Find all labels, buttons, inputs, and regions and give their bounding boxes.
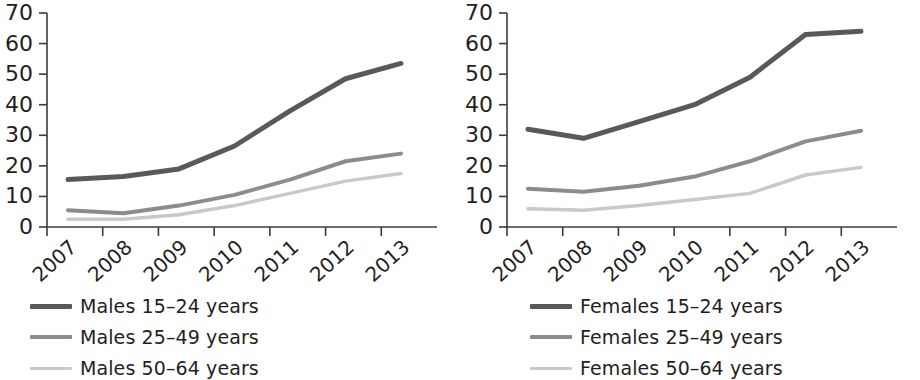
line-swatch-icon	[30, 335, 72, 339]
y-axis-tick-label: 20	[5, 153, 33, 178]
x-axis-tick-label: 2009	[138, 235, 192, 287]
x-axis-tick-label: 2011	[709, 235, 763, 287]
y-axis-tick-label: 40	[465, 92, 493, 117]
y-axis-tick-label: 40	[5, 92, 33, 117]
legend-swatch-males-15-24-wrap	[22, 304, 80, 309]
legend-item-females-25-49[interactable]: Females 25–49 years	[460, 325, 920, 349]
legend-item-females-50-64[interactable]: Females 50–64 years	[460, 356, 920, 380]
line-swatch-icon	[530, 367, 572, 370]
females-plot-area: 7060504030201002007200820092010201120122…	[460, 0, 920, 290]
x-axis-tick-label: 2010	[194, 235, 248, 287]
y-axis-tick-label: 70	[465, 0, 493, 25]
legend-swatch-males-50-64-wrap	[22, 367, 80, 370]
legend-label-females-15-24: Females 15–24 years	[580, 294, 783, 318]
chart-panel-females: 7060504030201002007200820092010201120122…	[460, 0, 920, 377]
males-plot-area: 7060504030201002007200820092010201120122…	[0, 0, 460, 290]
x-axis-tick-label: 2012	[765, 235, 819, 287]
legend-label-females-50-64: Females 50–64 years	[580, 356, 783, 380]
line-swatch-icon	[530, 304, 572, 309]
legend-label-males-50-64: Males 50–64 years	[80, 356, 259, 380]
legend-swatch-males-25-49-wrap	[22, 335, 80, 339]
series-line-3	[528, 167, 861, 210]
y-axis-tick-label: 60	[465, 31, 493, 56]
y-axis-tick-label: 60	[5, 31, 33, 56]
y-axis-tick-label: 0	[19, 214, 33, 239]
legend-item-males-25-49[interactable]: Males 25–49 years	[0, 325, 460, 349]
x-axis-tick-label: 2007	[487, 235, 541, 287]
y-axis-tick-label: 30	[5, 122, 33, 147]
x-axis-tick-label: 2008	[543, 235, 597, 287]
legend-item-females-15-24[interactable]: Females 15–24 years	[460, 294, 920, 318]
line-swatch-icon	[30, 367, 72, 370]
legend-swatch-females-50-64-wrap	[522, 367, 580, 370]
line-swatch-icon	[530, 335, 572, 339]
y-axis-tick-label: 50	[465, 61, 493, 86]
x-axis-tick-label: 2010	[654, 235, 708, 287]
legend-swatch-females-25-49-wrap	[522, 335, 580, 339]
y-axis-tick-label: 70	[5, 0, 33, 25]
series-line-1	[528, 31, 861, 138]
legend-label-males-25-49: Males 25–49 years	[80, 325, 259, 349]
x-axis-tick-label: 2012	[305, 235, 359, 287]
legend-swatch-females-15-24-wrap	[522, 304, 580, 309]
y-axis-tick-label: 0	[479, 214, 493, 239]
x-axis-tick-label: 2013	[820, 235, 874, 287]
x-axis-tick-label: 2008	[83, 235, 137, 287]
x-axis-tick-label: 2011	[249, 235, 303, 287]
y-axis-tick-label: 10	[465, 183, 493, 208]
y-axis-tick-label: 30	[465, 122, 493, 147]
y-axis-tick-label: 20	[465, 153, 493, 178]
males-legend: Males 15–24 years Males 25–49 years Male…	[0, 288, 460, 377]
legend-item-males-50-64[interactable]: Males 50–64 years	[0, 356, 460, 380]
chart-panel-males: 7060504030201002007200820092010201120122…	[0, 0, 460, 377]
x-axis-tick-label: 2009	[598, 235, 652, 287]
line-swatch-icon	[30, 304, 72, 309]
legend-label-females-25-49: Females 25–49 years	[580, 325, 783, 349]
females-legend: Females 15–24 years Females 25–49 years …	[460, 288, 920, 377]
y-axis-tick-label: 10	[5, 183, 33, 208]
legend-label-males-15-24: Males 15–24 years	[80, 294, 259, 318]
legend-item-males-15-24[interactable]: Males 15–24 years	[0, 294, 460, 318]
x-axis-tick-label: 2013	[360, 235, 414, 287]
x-axis-tick-label: 2007	[27, 235, 81, 287]
y-axis-tick-label: 50	[5, 61, 33, 86]
